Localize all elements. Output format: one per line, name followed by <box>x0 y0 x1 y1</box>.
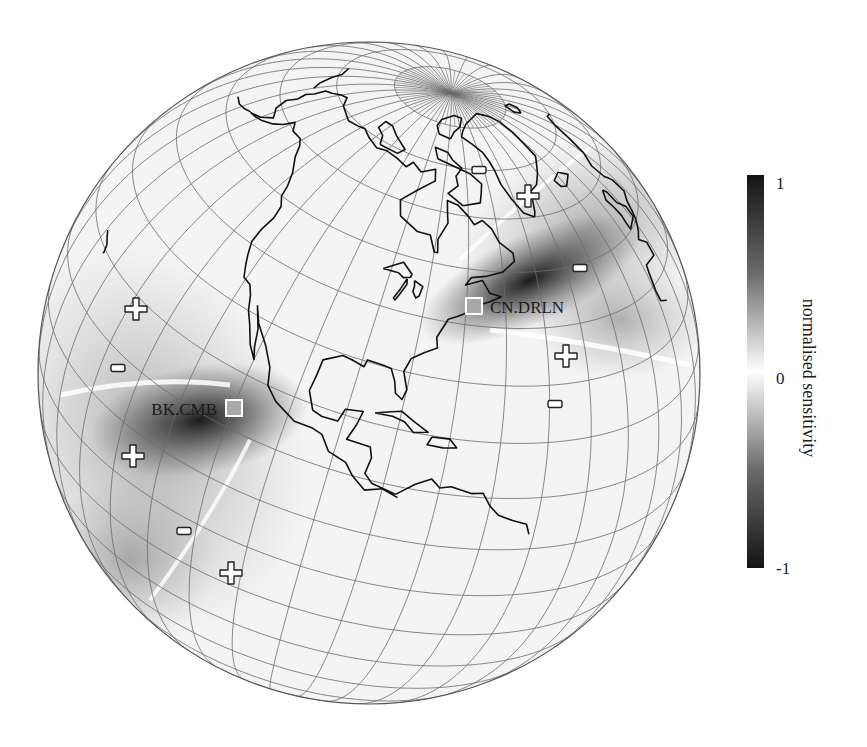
colorbar-tick-label: 1 <box>776 174 785 193</box>
station-marker-icon <box>466 298 482 314</box>
sensitivity-map-figure: CN.DRLNBK.CMB 10-1 normalised sensitivit… <box>0 0 867 747</box>
station-cn-drln: CN.DRLN <box>466 298 564 317</box>
station-label: CN.DRLN <box>490 298 564 317</box>
minus-sign-icon <box>472 167 486 174</box>
station-label: BK.CMB <box>151 400 217 419</box>
station-marker-icon <box>226 400 242 416</box>
minus-sign-icon <box>111 365 125 372</box>
minus-sign-icon <box>177 528 191 535</box>
colorbar-ticks: 10-1 <box>776 174 790 578</box>
colorbar-tick-label: -1 <box>776 559 790 578</box>
colorbar-tick-label: 0 <box>776 369 785 388</box>
minus-sign-icon <box>548 401 562 408</box>
globe <box>0 42 755 704</box>
minus-sign-icon <box>573 265 587 272</box>
colorbar-label: normalised sensitivity <box>799 299 819 457</box>
colorbar-gradient <box>747 175 764 568</box>
station-bk-cmb: BK.CMB <box>151 400 242 419</box>
colorbar: 10-1 normalised sensitivity <box>747 174 819 578</box>
